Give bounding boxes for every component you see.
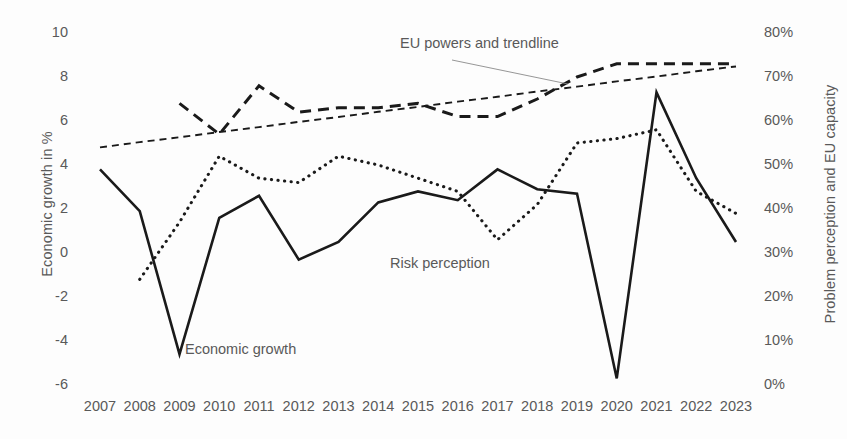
series-label-risk-perception: Risk perception (390, 255, 490, 271)
annotation-leader-line (452, 60, 568, 84)
chart-container: Economic growth in % Problem perception … (0, 0, 847, 439)
plot-area (0, 0, 847, 439)
series-label-economic-growth: Economic growth (185, 341, 296, 357)
series-path-trendline (100, 66, 736, 147)
series-label-eu-powers: EU powers and trendline (400, 35, 559, 51)
